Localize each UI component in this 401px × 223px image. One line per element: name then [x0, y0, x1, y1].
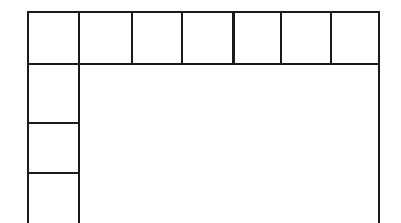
- header-cell-6[interactable]: [332, 13, 378, 63]
- left-column-cell-1[interactable]: [29, 124, 78, 172]
- left-column-cell-2[interactable]: [29, 174, 78, 223]
- page-root: [0, 0, 401, 223]
- header-cell-4[interactable]: [235, 13, 280, 63]
- header-cell-5[interactable]: [282, 13, 330, 63]
- header-cell-1[interactable]: [80, 13, 131, 63]
- table-border-right: [378, 11, 380, 223]
- header-cell-2[interactable]: [133, 13, 181, 63]
- header-cell-3[interactable]: [183, 13, 232, 63]
- table-grid: [0, 0, 401, 223]
- header-cell-0[interactable]: [29, 13, 78, 63]
- table-body-area[interactable]: [80, 65, 378, 223]
- left-column-cell-0[interactable]: [29, 65, 78, 122]
